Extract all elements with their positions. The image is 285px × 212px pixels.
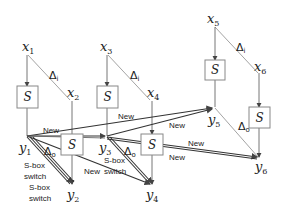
label-new-3: New [169, 121, 185, 130]
label-y2: y2 [66, 187, 79, 204]
svg-text:S: S [148, 138, 156, 152]
label-y5: y5 [207, 112, 220, 129]
label-new-5: New [188, 139, 204, 148]
sbox-2: S [61, 134, 83, 155]
label-x6: x6 [254, 59, 266, 76]
svg-text:S: S [23, 90, 31, 104]
label-sbox-switch-3a: S-box [104, 156, 125, 165]
label-x2: x2 [67, 85, 79, 102]
label-x4: x4 [147, 85, 159, 102]
sbox-6: S [249, 107, 270, 128]
label-y1: y1 [18, 140, 31, 157]
label-sbox-switch-1a: S-box [24, 161, 45, 170]
svg-text:S: S [103, 90, 111, 104]
sbox-3: S [97, 86, 118, 108]
sbox-1: S [17, 86, 38, 108]
label-new-4: New [84, 167, 100, 176]
label-delta-i-2: Δi [130, 69, 140, 83]
label-sbox-switch-2a: S-box [29, 183, 50, 192]
label-y3: y3 [98, 140, 111, 157]
svg-text:S: S [211, 63, 219, 77]
label-new-6: New [169, 153, 185, 162]
label-x1: x1 [22, 39, 34, 56]
svg-text:S: S [68, 138, 76, 152]
label-delta-i-3: Δi [236, 41, 246, 55]
label-sbox-switch-1b: switch [24, 172, 46, 181]
svg-text:S: S [255, 111, 263, 125]
sbox-5: S [205, 60, 225, 80]
label-x3: x3 [100, 39, 112, 56]
label-new-1: New [43, 126, 59, 135]
label-sbox-switch-3b: switch [104, 167, 126, 176]
label-new-2: New [118, 112, 134, 121]
label-x5: x5 [207, 11, 219, 28]
label-sbox-switch-2b: switch [29, 194, 51, 203]
label-delta-o-2: Δo [124, 145, 136, 159]
sbox-4: S [141, 134, 163, 155]
label-delta-i-1: Δi [49, 69, 59, 83]
label-y4: y4 [145, 187, 158, 204]
diagram-canvas: S S S S S S x1 x2 x3 x4 x5 x6 y1 y2 y3 y… [0, 0, 285, 212]
label-delta-o-3: Δo [238, 120, 250, 134]
label-y6: y6 [254, 159, 267, 176]
